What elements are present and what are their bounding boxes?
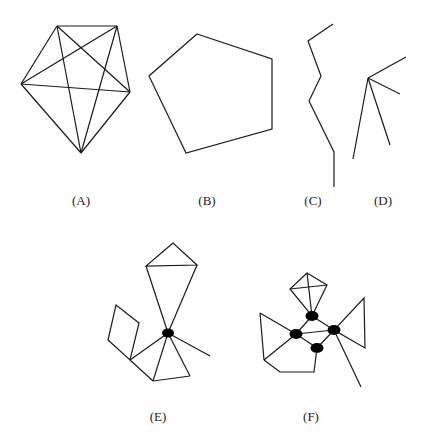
figure-b: (B) xyxy=(149,34,272,208)
figure-d: (D) xyxy=(353,57,406,208)
figure-e: (E) xyxy=(108,243,210,424)
cut-vertex xyxy=(306,311,319,321)
figure-a: (A) xyxy=(21,26,130,208)
figure-c-label: (C) xyxy=(304,193,321,208)
figure-f: (F) xyxy=(260,273,365,424)
cut-vertex xyxy=(290,329,303,339)
figure-d-label: (D) xyxy=(374,193,392,208)
figure-b-label: (B) xyxy=(198,193,215,208)
cut-vertex xyxy=(328,325,341,335)
cut-vertex xyxy=(311,343,324,353)
figure-e-label: (E) xyxy=(150,409,167,424)
figure-a-label: (A) xyxy=(72,193,90,208)
graph-figures: (A) (B) (C) (D) (E) xyxy=(0,0,425,437)
figure-f-label: (F) xyxy=(303,409,319,424)
cut-vertex xyxy=(162,329,174,338)
figure-c: (C) xyxy=(304,24,334,208)
